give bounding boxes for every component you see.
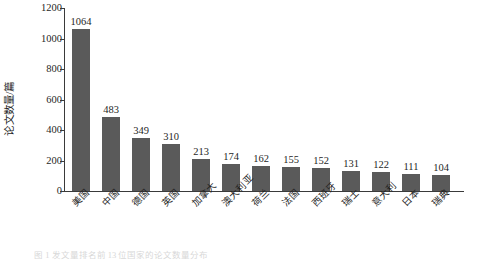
bar-slot: 111 — [398, 7, 424, 191]
y-axis-title-text: 论文数量/篇 — [1, 81, 16, 135]
y-axis-tick-mark — [60, 100, 64, 101]
bar-value-label: 213 — [188, 146, 214, 157]
x-axis-tick-label: 英国 — [160, 195, 186, 213]
x-axis-tick-label: 中国 — [100, 195, 126, 213]
bar — [342, 171, 360, 191]
bar-value-label: 483 — [98, 104, 124, 115]
x-axis-tick-label: 荷兰 — [250, 195, 276, 213]
y-axis-line — [64, 8, 65, 192]
x-axis-tick-label: 法国 — [280, 195, 306, 213]
y-axis-tick-mark — [60, 161, 64, 162]
x-axis-tick-label: 德国 — [130, 195, 156, 213]
y-axis-tick-mark — [60, 39, 64, 40]
y-axis-tick-label: 1200 — [22, 3, 62, 13]
bar-value-label: 131 — [338, 158, 364, 169]
y-axis-tick-mark — [60, 69, 64, 70]
x-axis-tick-label: 意大利 — [370, 195, 396, 213]
x-axis-tick-label: 瑞典 — [430, 195, 456, 213]
bar — [132, 138, 150, 191]
bar-slot: 349 — [128, 7, 154, 191]
y-axis-tick-label: 600 — [22, 95, 62, 105]
x-axis-tick-label: 瑞士 — [340, 195, 366, 213]
bar-value-label: 162 — [248, 153, 274, 164]
bar-slot: 162 — [248, 7, 274, 191]
figure-caption: 图 1 发文量排名前 13 位国家的论文数量分布 — [34, 250, 454, 260]
bar — [72, 29, 90, 191]
bar-value-label: 349 — [128, 125, 154, 136]
bar-slot: 213 — [188, 7, 214, 191]
x-axis-tick-label: 美国 — [70, 195, 96, 213]
bar-value-label: 111 — [398, 161, 424, 172]
bar-slot: 310 — [158, 7, 184, 191]
x-axis-tick-label: 加拿大 — [190, 195, 216, 213]
bar — [282, 167, 300, 191]
bar-value-label: 174 — [218, 151, 244, 162]
y-axis-title: 论文数量/篇 — [0, 52, 16, 164]
y-axis-tick-labels: 020040060080010001200 — [18, 0, 62, 200]
y-axis-tick-mark — [60, 130, 64, 131]
bar-slot: 104 — [428, 7, 454, 191]
y-axis-tick-label: 400 — [22, 125, 62, 135]
bar-slot: 174 — [218, 7, 244, 191]
y-axis-tick-mark — [60, 8, 64, 9]
bar-value-label: 155 — [278, 154, 304, 165]
bar-value-label: 122 — [368, 159, 394, 170]
bar-value-label: 1064 — [68, 16, 94, 27]
bar — [102, 117, 120, 191]
bar-slot: 1064 — [68, 7, 94, 191]
bar-slot: 155 — [278, 7, 304, 191]
x-axis-tick-label: 日本 — [400, 195, 426, 213]
y-axis-tick-label: 800 — [22, 64, 62, 74]
bar-value-label: 152 — [308, 155, 334, 166]
bar-slot: 122 — [368, 7, 394, 191]
plot-area: 1064483349310213174162155152131122111104 — [64, 8, 464, 192]
bar-value-label: 104 — [428, 162, 454, 173]
x-axis-tick-label: 澳大利亚 — [220, 195, 246, 213]
bar-slot: 152 — [308, 7, 334, 191]
bar-value-label: 310 — [158, 131, 184, 142]
bar-slot: 483 — [98, 7, 124, 191]
bar — [162, 144, 180, 191]
y-axis-tick-label: 1000 — [22, 34, 62, 44]
bar-slot: 131 — [338, 7, 364, 191]
x-axis-tick-labels: 美国中国德国英国加拿大澳大利亚荷兰法国西班牙瑞士意大利日本瑞典 — [64, 193, 464, 249]
x-axis-tick-label: 西班牙 — [310, 195, 336, 213]
y-axis-tick-label: 200 — [22, 156, 62, 166]
y-axis-tick-mark — [60, 191, 64, 192]
y-axis-tick-label: 0 — [22, 186, 62, 196]
